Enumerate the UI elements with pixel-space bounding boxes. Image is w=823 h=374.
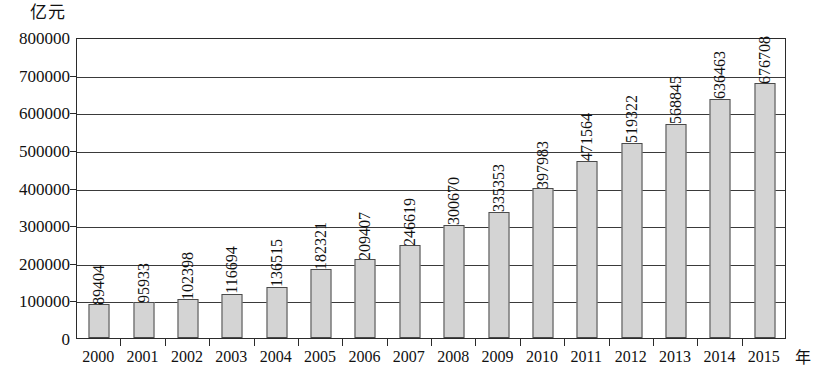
bar-value-label: 116694 [224,247,240,294]
y-axis-tick-label: 800000 [0,30,70,47]
bar-slot: 89404 [77,39,121,338]
bar [488,212,509,338]
x-axis-tick-label: 2004 [260,349,292,365]
bar-value-label: 136515 [269,239,285,287]
bar-slot: 182321 [299,39,343,338]
y-axis-unit-label: 亿元 [30,4,65,21]
x-axis-tick-label: 2012 [615,349,647,365]
bar-chart: 亿元 0100000200000300000400000500000600000… [0,0,823,374]
bar-slot: 95933 [121,39,165,338]
bar-value-label: 676708 [757,36,773,84]
bar-value-label: 335353 [491,164,507,212]
bar [355,259,376,338]
bar [754,83,775,338]
bar-slot: 676708 [743,39,787,338]
x-axis-tick-mark [342,339,343,346]
x-axis-tick-label: 2013 [659,349,691,365]
y-axis-tick-label: 200000 [0,255,70,272]
bar-value-label: 246619 [402,198,418,246]
bar-value-label: 102398 [180,252,196,300]
bar-slot: 246619 [388,39,432,338]
x-axis-tick-mark [165,339,166,346]
bar-slot: 519322 [610,39,654,338]
bar-value-label: 519322 [624,95,640,143]
x-axis-tick-label: 2014 [703,349,735,365]
x-axis-tick-mark [120,339,121,346]
y-axis-tick-label: 100000 [0,293,70,310]
bar [710,99,731,338]
x-axis-tick-mark [742,339,743,346]
bar-slot: 116694 [210,39,254,338]
bar [311,269,332,338]
x-axis-tick-label: 2003 [215,349,247,365]
bar [532,188,553,338]
x-axis-tick-mark [697,339,698,346]
x-axis-tick-mark [298,339,299,346]
bar [222,294,243,338]
bar-value-label: 471564 [579,113,595,161]
y-axis-tick-label: 700000 [0,67,70,84]
bar-slot: 136515 [255,39,299,338]
bar-value-label: 568845 [668,76,684,124]
x-axis-tick-mark [653,339,654,346]
bar [444,225,465,338]
bar-value-label: 89404 [91,265,107,305]
x-axis-tick-label: 2010 [526,349,558,365]
bar [177,299,198,338]
bar-slot: 209407 [343,39,387,338]
bar-slot: 568845 [654,39,698,338]
y-axis-tick-label: 300000 [0,218,70,235]
x-axis-tick-mark [254,339,255,346]
x-axis-tick-mark [564,339,565,346]
x-axis-tick-label: 2005 [304,349,336,365]
x-axis-tick-label: 2009 [482,349,514,365]
bar [266,287,287,338]
x-axis-unit-label: 年 [795,350,811,366]
bar-slot: 335353 [476,39,520,338]
x-axis-tick-mark [609,339,610,346]
bar [666,124,687,338]
bar-value-label: 182321 [313,222,329,270]
x-axis-tick-label: 2008 [437,349,469,365]
y-axis-tick-label: 400000 [0,180,70,197]
bar-slot: 300670 [432,39,476,338]
bar-slot: 397983 [521,39,565,338]
x-axis-tick-mark [475,339,476,346]
x-axis-tick-label: 2002 [171,349,203,365]
bar [133,302,154,338]
x-axis-tick-label: 2015 [748,349,780,365]
x-axis-tick-mark [209,339,210,346]
y-axis-tick-label: 0 [0,331,70,348]
bar-value-label: 397983 [535,141,551,189]
bar [577,161,598,338]
x-axis-tick-label: 2001 [127,349,159,365]
x-axis-tick-mark [387,339,388,346]
bar [621,143,642,338]
x-axis-tick-label: 2006 [348,349,380,365]
bar-value-label: 95933 [136,263,152,303]
y-axis-tick-label: 600000 [0,105,70,122]
bar-slot: 471564 [565,39,609,338]
bar-value-label: 209407 [357,212,373,260]
bar-slot: 636463 [698,39,742,338]
bar [89,304,110,338]
bar-value-label: 300670 [446,177,462,225]
x-axis-tick-label: 2007 [393,349,425,365]
x-axis-tick-mark [431,339,432,346]
bar-slot: 102398 [166,39,210,338]
y-axis-tick-label: 500000 [0,142,70,159]
x-axis-tick-label: 2000 [82,349,114,365]
x-axis-tick-mark [520,339,521,346]
x-axis-tick-label: 2011 [571,349,602,365]
plot-area: 8940495933102398116694136515182321209407… [76,38,786,339]
bar-value-label: 636463 [712,51,728,99]
bar [399,245,420,338]
